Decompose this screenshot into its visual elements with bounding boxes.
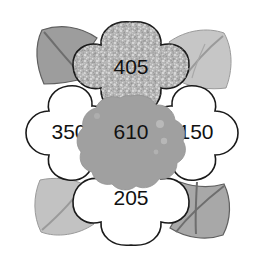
center-speckle-1 bbox=[156, 120, 164, 128]
center-speckle-3 bbox=[154, 150, 159, 155]
flower-center-label: 610 bbox=[113, 120, 148, 143]
flower-diagram: 405 350 150 205 610 bbox=[0, 0, 265, 268]
flower-graphic: 405 350 150 205 610 bbox=[0, 0, 265, 268]
center-speckle-4 bbox=[94, 113, 100, 119]
center-speckle-2 bbox=[161, 138, 167, 144]
flower-center: 610 bbox=[77, 95, 185, 190]
petal-top-label: 405 bbox=[113, 55, 148, 78]
